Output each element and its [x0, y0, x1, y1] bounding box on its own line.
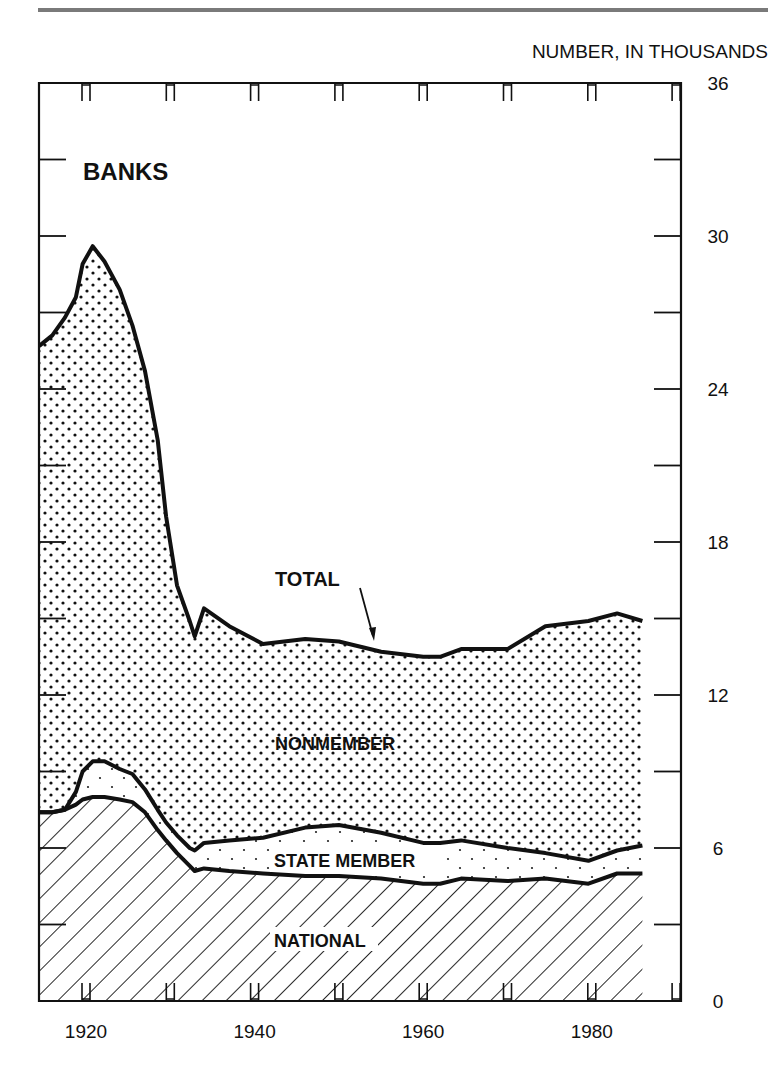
y-tick-label: 12	[707, 685, 728, 706]
x-tick-label: 1960	[402, 1021, 444, 1042]
y-axis-title: NUMBER, IN THOUSANDS	[532, 41, 768, 62]
y-axis-labels: 061218243036	[707, 73, 729, 1012]
y-tick-label: 18	[707, 532, 728, 553]
x-tick	[588, 84, 596, 101]
x-axis-labels: 1920194019601980	[65, 1021, 613, 1042]
y-tick-label: 30	[707, 226, 728, 247]
x-tick	[672, 84, 680, 101]
x-tick	[335, 84, 343, 101]
header-rule	[38, 8, 768, 12]
label-nonmember: NONMEMBER	[275, 734, 395, 754]
y-tick-label: 36	[707, 73, 728, 94]
y-tick-label: 6	[713, 838, 724, 859]
x-tick	[504, 84, 512, 101]
label-national: NATIONAL	[274, 931, 366, 951]
x-tick	[672, 983, 680, 1000]
label-total: TOTAL	[275, 568, 340, 590]
chart: NUMBER, IN THOUSANDS 061218243036 192019…	[0, 0, 768, 1066]
x-tick-label: 1920	[65, 1021, 107, 1042]
x-tick-label: 1980	[571, 1021, 613, 1042]
x-tick-label: 1940	[233, 1021, 275, 1042]
y-tick-label: 0	[713, 991, 724, 1012]
x-tick	[251, 84, 259, 101]
total-arrow-head	[369, 627, 376, 641]
label-state-member: STATE MEMBER	[274, 851, 415, 871]
plot-area	[37, 246, 642, 1001]
x-tick	[419, 84, 427, 101]
x-tick	[82, 84, 90, 101]
panel-title-banks: BANKS	[83, 158, 168, 185]
x-tick	[166, 84, 174, 101]
y-tick-label: 24	[707, 379, 729, 400]
